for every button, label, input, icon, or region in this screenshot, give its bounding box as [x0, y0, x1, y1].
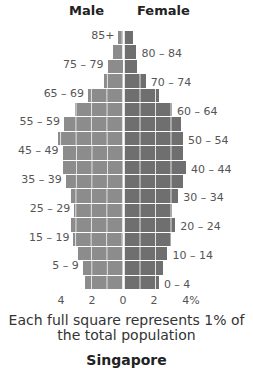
bar-female: [124, 161, 186, 174]
bar-male: [71, 189, 123, 202]
bar-male: [113, 45, 123, 58]
chart-title: Singapore: [0, 352, 253, 368]
bar-male: [73, 233, 123, 246]
age-group-label: 30 – 34: [183, 191, 224, 204]
age-group-label: 5 – 9: [52, 259, 79, 272]
bar-male: [63, 161, 123, 174]
bar-female: [124, 117, 181, 130]
bar-male: [78, 247, 123, 260]
bar-male: [83, 261, 123, 274]
bar-female: [124, 45, 136, 58]
bar-female: [124, 218, 175, 231]
age-group-label: 55 – 59: [20, 115, 61, 128]
bar-male: [75, 103, 123, 116]
bar-male: [88, 89, 123, 102]
bar-male: [118, 31, 123, 44]
age-group-label: 50 – 54: [188, 134, 229, 147]
x-tick-label: 4: [58, 294, 65, 307]
bar-female: [124, 204, 172, 217]
x-tick-label: 2: [151, 294, 158, 307]
bar-female: [124, 261, 163, 274]
bar-female: [124, 31, 133, 44]
age-group-label: 60 – 64: [177, 105, 218, 118]
age-group-label: 0 – 4: [164, 278, 191, 291]
bar-male: [63, 146, 123, 159]
bar-male: [58, 132, 123, 145]
age-group-label: 35 – 39: [21, 173, 62, 186]
bar-female: [124, 146, 183, 159]
age-group-label: 10 – 14: [172, 249, 213, 262]
population-pyramid: 85+80 – 8475 – 7970 – 7465 – 6960 – 6455…: [0, 0, 253, 300]
age-group-label: 85+: [91, 29, 114, 42]
bar-male: [108, 60, 124, 73]
bar-female: [124, 247, 167, 260]
age-group-label: 25 – 29: [30, 202, 71, 215]
age-group-label: 75 – 79: [63, 58, 104, 71]
bar-female: [124, 103, 172, 116]
bar-male: [74, 204, 123, 217]
bar-male: [71, 218, 123, 231]
bar-female: [124, 189, 178, 202]
bar-female: [124, 276, 159, 289]
age-group-label: 70 – 74: [151, 76, 192, 89]
x-tick-label: 2: [89, 294, 96, 307]
age-group-label: 45 – 49: [18, 144, 59, 157]
bar-male: [66, 175, 123, 188]
x-tick-label: 4%: [182, 294, 199, 307]
bar-male: [64, 117, 123, 130]
age-group-label: 80 – 84: [141, 47, 182, 60]
bar-female: [124, 60, 137, 73]
age-group-label: 20 – 24: [180, 220, 221, 233]
bar-female: [124, 89, 159, 102]
age-group-label: 15 – 19: [29, 231, 70, 244]
age-group-label: 65 – 69: [44, 87, 85, 100]
bar-female: [124, 233, 171, 246]
bar-female: [124, 74, 146, 87]
bar-male: [104, 74, 123, 87]
age-group-label: 40 – 44: [191, 163, 232, 176]
caption-line-1: Each full square represents 1% of: [0, 312, 253, 328]
x-tick-label: 0: [120, 294, 127, 307]
bar-male: [85, 276, 123, 289]
caption-line-2: the total population: [0, 327, 253, 343]
bar-female: [124, 132, 183, 145]
bar-female: [124, 175, 183, 188]
